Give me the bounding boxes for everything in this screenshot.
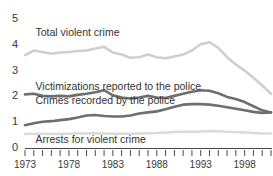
x-axis-tick-label: 1993 <box>181 160 221 170</box>
x-axis-tick-label: 1998 <box>225 160 265 170</box>
series-label-3: Arrests for violent crime <box>36 134 146 145</box>
y-axis-tick-label: 0 <box>4 142 18 153</box>
x-axis-tick-label: 1988 <box>137 160 177 170</box>
x-axis-ticks <box>25 150 271 156</box>
x-axis-tick-label: 1978 <box>49 160 89 170</box>
x-axis-tick-label: 1973 <box>5 160 45 170</box>
series-label-1: Victimizations reported to the police <box>36 81 202 92</box>
y-axis-tick-label: 2 <box>4 90 18 101</box>
series-label-2: Crimes recorded by the police <box>36 95 175 106</box>
y-axis-tick-label: 1 <box>4 116 18 127</box>
series-label-0: Total violent crime <box>36 27 120 38</box>
y-axis-tick-label: 5 <box>4 13 18 24</box>
y-axis-tick-label: 4 <box>4 39 18 50</box>
crime-trends-chart: 012345 197319781983198819931998 Total vi… <box>0 0 273 176</box>
x-axis-tick-label: 1983 <box>93 160 133 170</box>
y-axis-tick-label: 3 <box>4 65 18 76</box>
series-line-2 <box>25 104 271 125</box>
